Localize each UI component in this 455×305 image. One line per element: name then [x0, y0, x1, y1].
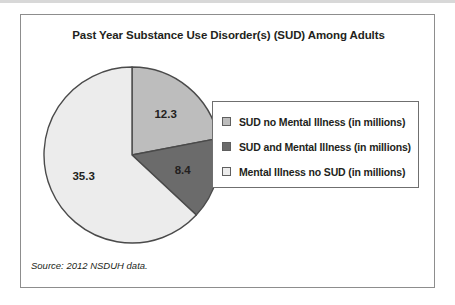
legend-label-sud-no-mi: SUD no Mental Illness (in millions)	[239, 116, 405, 128]
pie-slice-value-label: 8.4	[175, 164, 192, 176]
pie-chart-svg: 12.38.435.3	[41, 64, 223, 246]
chart-title: Past Year Substance Use Disorder(s) (SUD…	[21, 29, 436, 41]
legend-swatch-sud-and-mi	[222, 142, 231, 151]
legend-item-mental-illness-no-sud[interactable]: Mental Illness no SUD (in millions)	[222, 160, 418, 183]
pie-chart: 12.38.435.3	[41, 64, 223, 246]
legend-swatch-mi-no-sud	[222, 167, 231, 176]
pie-slice-group	[44, 67, 220, 243]
legend-item-sud-and-mental-illness[interactable]: SUD and Mental Illness (in millions)	[222, 135, 418, 158]
legend-label-sud-and-mi: SUD and Mental Illness (in millions)	[239, 141, 411, 153]
chart-figure-frame: Past Year Substance Use Disorder(s) (SUD…	[20, 14, 435, 288]
source-note: Source: 2012 NSDUH data.	[31, 260, 148, 271]
legend-label-mi-no-sud: Mental Illness no SUD (in millions)	[239, 166, 405, 178]
legend-item-sud-no-mental-illness[interactable]: SUD no Mental Illness (in millions)	[222, 110, 418, 133]
pie-slice-value-label: 35.3	[72, 170, 94, 182]
chart-legend: SUD no Mental Illness (in millions) SUD …	[212, 101, 419, 188]
image-top-edge-artifact	[0, 0, 455, 3]
legend-swatch-sud-no-mi	[222, 117, 231, 126]
pie-slice-value-label: 12.3	[154, 108, 176, 120]
